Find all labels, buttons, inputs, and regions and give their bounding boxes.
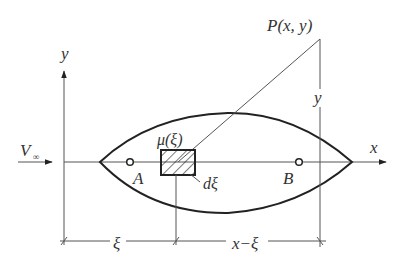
dim-xi-label: ξ — [113, 234, 121, 253]
point-a-label: A — [132, 169, 144, 188]
freestream-subscript: ∞ — [33, 152, 39, 162]
dim-x-minus-xi-label: x−ξ — [231, 234, 259, 253]
point-p-label: P(x, y) — [266, 16, 313, 35]
diagram-canvas: y x V ∞ A B μ(ξ) dξ P(x, y) y ξ x−ξ — [0, 0, 400, 269]
y-dimension-label: y — [312, 88, 322, 107]
source-element — [161, 150, 195, 175]
element-width-label: dξ — [203, 175, 218, 192]
body-outline — [100, 113, 352, 213]
point-a-marker — [127, 159, 134, 166]
freestream-label: V — [20, 141, 33, 160]
x-axis-label: x — [369, 138, 378, 157]
point-b-label: B — [283, 169, 294, 188]
source-strength-label: μ(ξ) — [156, 131, 183, 149]
y-axis-label: y — [59, 44, 69, 63]
element-to-p-line — [178, 39, 320, 162]
point-b-marker — [296, 159, 303, 166]
